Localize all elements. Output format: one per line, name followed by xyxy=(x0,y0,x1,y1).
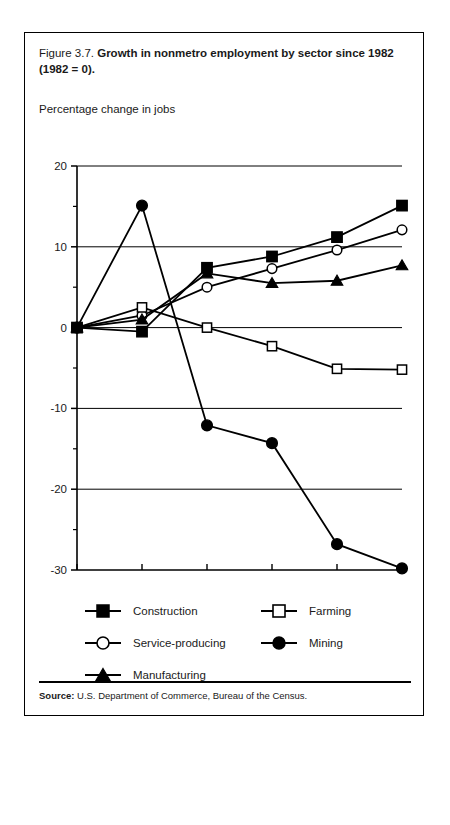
figure-title-line2: (1982 = 0). xyxy=(39,63,95,75)
open-square-icon xyxy=(259,603,299,619)
data-point-farming-1983 xyxy=(137,303,146,312)
legend-label-construction: Construction xyxy=(133,605,198,617)
data-point-construction-1985 xyxy=(267,251,277,261)
y-axis-tick-label: 0 xyxy=(61,322,67,334)
chart-legend: Construction Farming Service-producing xyxy=(59,596,409,688)
data-point-farming-1985 xyxy=(267,342,276,351)
data-series-layer xyxy=(71,200,408,574)
y-axis-tick-label: -10 xyxy=(50,402,67,414)
filled-square-icon xyxy=(83,603,123,619)
y-axis-tick-label: 10 xyxy=(54,241,67,253)
legend-label-manufacturing: Manufacturing xyxy=(133,669,206,681)
y-axis-tick-labels: 20100-10-20-30 xyxy=(50,160,67,576)
source-note: Source: U.S. Department of Commerce, Bur… xyxy=(39,690,411,701)
data-point-service-producing-1984 xyxy=(202,282,212,292)
legend-item-farming: Farming xyxy=(259,596,419,626)
y-axis-tick-label: -20 xyxy=(50,483,67,495)
data-point-mining-1982 xyxy=(72,322,83,333)
data-point-service-producing-1987 xyxy=(397,225,407,235)
x-axis-ticks xyxy=(77,564,402,570)
y-axis-tick-label: -30 xyxy=(50,564,67,576)
line-chart: 20100-10-20-30 198219831984198519861987 xyxy=(25,121,425,581)
data-point-mining-1985 xyxy=(267,438,278,449)
figure-number: Figure 3.7. xyxy=(39,47,94,59)
open-circle-icon xyxy=(83,635,123,651)
figure-panel: Figure 3.7. Growth in nonmetro employmen… xyxy=(24,32,424,716)
legend-label-service-producing: Service-producing xyxy=(133,637,226,649)
data-point-mining-1987 xyxy=(397,563,408,574)
source-label: Source: xyxy=(39,690,74,701)
series-construction xyxy=(72,200,407,336)
data-point-manufacturing-1987 xyxy=(396,260,408,270)
legend-label-mining: Mining xyxy=(309,637,343,649)
legend-item-construction: Construction xyxy=(83,596,263,626)
data-point-construction-1986 xyxy=(332,232,342,242)
y-axis-tick-label: 20 xyxy=(54,160,67,172)
plot-area: 20100-10-20-30 198219831984198519861987 xyxy=(25,121,425,581)
series-mining xyxy=(72,200,408,574)
data-point-farming-1984 xyxy=(202,323,211,332)
data-point-mining-1983 xyxy=(137,200,148,211)
x-axis-tick-label: 1985 xyxy=(259,580,285,581)
data-point-service-producing-1985 xyxy=(267,264,277,274)
legend-item-manufacturing: Manufacturing xyxy=(83,660,263,690)
data-point-construction-1987 xyxy=(397,200,407,210)
data-point-construction-1983 xyxy=(137,326,147,336)
series-line xyxy=(77,206,402,569)
data-point-mining-1986 xyxy=(332,539,343,550)
grid-lines xyxy=(77,166,402,570)
x-axis-tick-label: 1986 xyxy=(324,580,350,581)
data-point-farming-1986 xyxy=(332,364,341,373)
legend-item-mining: Mining xyxy=(259,628,419,658)
data-point-farming-1987 xyxy=(397,365,406,374)
x-axis-tick-label: 1984 xyxy=(194,580,220,581)
data-point-service-producing-1986 xyxy=(332,245,342,255)
legend-item-service-producing: Service-producing xyxy=(83,628,263,658)
x-axis-tick-label: 1983 xyxy=(129,580,155,581)
series-line xyxy=(77,307,402,369)
legend-label-farming: Farming xyxy=(309,605,351,617)
series-manufacturing xyxy=(71,260,408,332)
figure-title-line1: Growth in nonmetro employment by sector … xyxy=(97,47,394,59)
figure-title: Figure 3.7. Growth in nonmetro employmen… xyxy=(39,45,411,77)
data-point-mining-1984 xyxy=(202,420,213,431)
x-axis-tick-label: 1982 xyxy=(64,580,90,581)
filled-circle-icon xyxy=(259,635,299,651)
y-axis-caption: Percentage change in jobs xyxy=(39,103,175,115)
series-farming xyxy=(72,303,406,374)
source-divider xyxy=(39,681,411,683)
x-axis-tick-label: 1987 xyxy=(389,580,415,581)
x-axis-tick-labels: 198219831984198519861987 xyxy=(64,580,415,581)
source-text: U.S. Department of Commerce, Bureau of t… xyxy=(77,690,307,701)
